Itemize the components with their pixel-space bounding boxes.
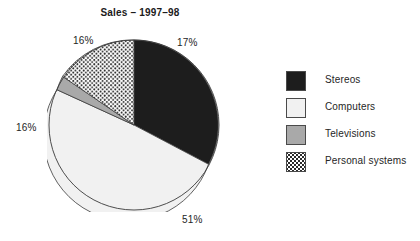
legend-label-computers: Computers <box>325 101 375 112</box>
legend-item-personal-systems: Personal systems <box>286 152 418 179</box>
pie-label-stereos: 17% <box>177 37 198 48</box>
pie-label-personal-systems: 16% <box>73 35 94 46</box>
pie-label-computers: 51% <box>182 214 203 225</box>
pie-chart-figure: Sales – 1997–98 17% 51% 16% 16% <box>0 0 420 241</box>
pie-label-televisions: 16% <box>16 122 37 133</box>
legend-item-televisions: Televisions <box>286 125 418 152</box>
legend-item-stereos: Stereos <box>286 71 418 98</box>
legend-swatch-stereos <box>286 71 306 91</box>
pie-chart <box>47 38 221 212</box>
legend-swatch-computers <box>286 98 306 118</box>
legend-label-stereos: Stereos <box>325 74 361 85</box>
legend-item-computers: Computers <box>286 98 418 125</box>
chart-legend: Stereos Computers Televisions Personal s… <box>286 71 418 179</box>
legend-swatch-televisions <box>286 125 306 145</box>
legend-label-personal-systems: Personal systems <box>325 155 406 166</box>
legend-swatch-personal-systems <box>286 152 306 172</box>
legend-label-televisions: Televisions <box>325 128 376 139</box>
chart-title: Sales – 1997–98 <box>0 7 280 18</box>
pie-chart-svg <box>47 38 221 212</box>
